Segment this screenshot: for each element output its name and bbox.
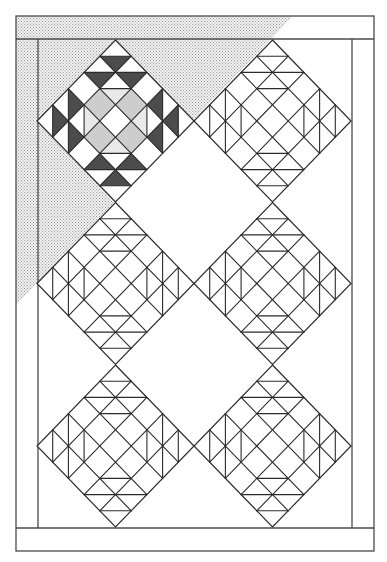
block-r3-c1 <box>37 365 194 527</box>
quilt-canvas: Quilt layout diagram <box>0 0 387 562</box>
block-r2-c2 <box>194 203 351 365</box>
block-background <box>194 203 351 365</box>
block-background <box>194 365 351 527</box>
block-background <box>37 365 194 527</box>
block-r3-c2 <box>194 365 351 527</box>
quilt-diagram: Quilt layout diagram <box>0 0 387 562</box>
